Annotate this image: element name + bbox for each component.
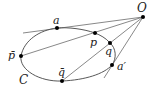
- point-o: [141, 15, 145, 19]
- label-p-bar: p̄: [8, 49, 15, 62]
- secant-line-o-p-pbar: [21, 17, 143, 56]
- label-q: q: [105, 45, 112, 58]
- label-q-bar: q̄: [58, 66, 65, 79]
- point-p: [93, 31, 97, 35]
- point-q-bar: [60, 79, 64, 83]
- curve-c: [21, 28, 115, 81]
- point-p-bar: [19, 54, 23, 58]
- label-o: O: [137, 1, 147, 15]
- label-a: a: [53, 14, 60, 27]
- label-a-prime: a′: [117, 60, 127, 73]
- diagram-canvas: O a p q a′ p̄ q̄ C: [0, 0, 155, 92]
- point-a-prime: [110, 63, 114, 67]
- label-c: C: [19, 73, 28, 87]
- label-p: p: [90, 36, 97, 49]
- secant-line-o-q-qbar: [62, 17, 143, 81]
- tangent-line-o-a: [23, 17, 143, 33]
